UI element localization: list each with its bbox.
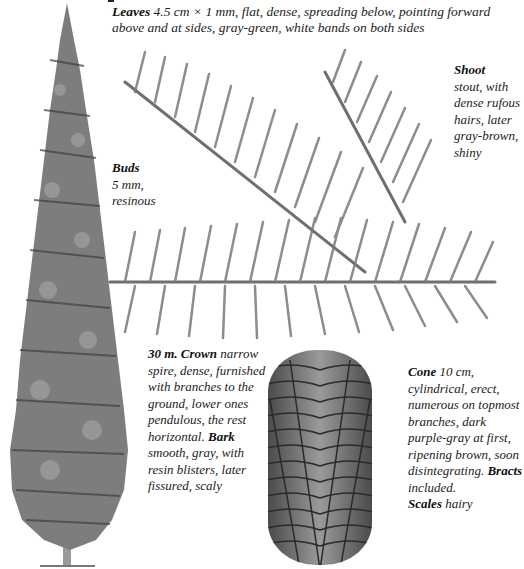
bark-text: smooth, gray, with resin blisters, later… — [148, 445, 246, 493]
cone-caption: Cone 10 cm, cylindrical, erect, numerous… — [408, 364, 524, 513]
scales-label: Scales — [408, 496, 442, 511]
leaves-text: 4.5 cm × 1 mm, flat, dense, spreading be… — [112, 4, 490, 35]
buds-caption: Buds 5 mm, resinous — [112, 160, 172, 210]
buds-text: 5 mm, resinous — [112, 177, 156, 209]
cone-text: 10 cm, cylindrical, erect, numerous on t… — [408, 364, 519, 478]
shoot-text: stout, with dense rufous hairs, later gr… — [454, 79, 520, 160]
buds-label: Buds — [112, 160, 139, 175]
bracts-label: Bracts — [487, 463, 522, 478]
crown-caption: 30 m. Crown narrow spire, dense, furnish… — [148, 346, 266, 495]
shoot-label: Shoot — [454, 62, 485, 77]
leaves-caption: Leaves 4.5 cm × 1 mm, flat, dense, sprea… — [112, 4, 524, 36]
scales-text: hairy — [445, 496, 472, 511]
bark-label: Bark — [208, 429, 235, 444]
crown-label: 30 m. Crown — [148, 346, 217, 361]
cone-label: Cone — [408, 364, 436, 379]
cone-illustration — [260, 340, 380, 569]
bracts-text: included. — [408, 480, 456, 495]
leaves-label: Leaves — [112, 4, 150, 19]
shoot-caption: Shoot stout, with dense rufous hairs, la… — [454, 62, 524, 161]
